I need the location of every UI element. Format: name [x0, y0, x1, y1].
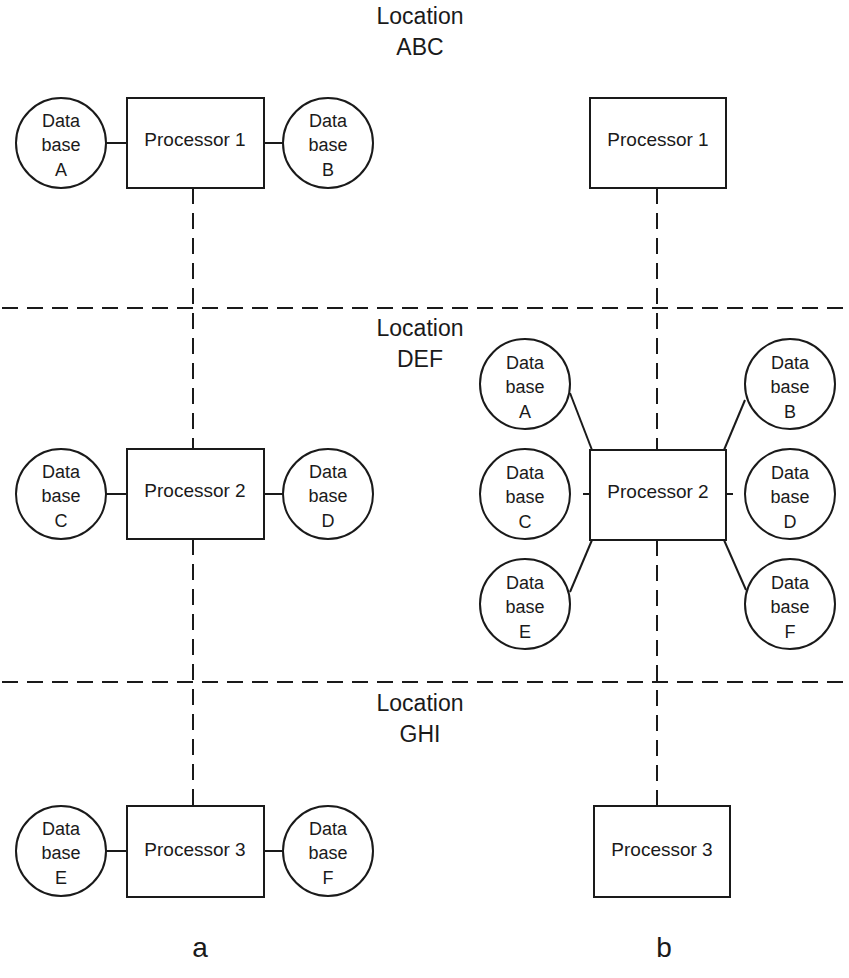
svg-text:Data: Data — [42, 462, 81, 482]
svg-text:Location: Location — [377, 315, 464, 341]
svg-text:Data: Data — [771, 463, 810, 483]
panel-b-caption: b — [656, 932, 672, 963]
processor-1: Processor 1 — [127, 98, 264, 188]
processor-1: Processor 1 — [590, 98, 726, 188]
svg-text:B: B — [322, 160, 334, 180]
svg-text:base: base — [41, 135, 80, 155]
svg-text:Data: Data — [506, 353, 545, 373]
svg-text:base: base — [308, 843, 347, 863]
svg-text:Processor 2: Processor 2 — [607, 481, 708, 502]
svg-text:base: base — [41, 486, 80, 506]
svg-text:F: F — [785, 622, 796, 642]
database-b: Data base B — [745, 339, 835, 429]
svg-text:base: base — [308, 486, 347, 506]
svg-text:Data: Data — [309, 462, 348, 482]
svg-text:Data: Data — [309, 111, 348, 131]
svg-text:DEF: DEF — [397, 346, 443, 372]
svg-text:base: base — [308, 135, 347, 155]
svg-text:base: base — [770, 487, 809, 507]
svg-text:Data: Data — [506, 463, 545, 483]
svg-text:Processor 2: Processor 2 — [144, 480, 245, 501]
database-c: Data base C — [480, 449, 570, 539]
svg-text:F: F — [323, 868, 334, 888]
svg-text:C: C — [55, 511, 68, 531]
svg-text:GHI: GHI — [400, 721, 441, 747]
svg-text:Processor 3: Processor 3 — [611, 839, 712, 860]
panel-a-caption: a — [192, 932, 208, 963]
svg-text:base: base — [505, 597, 544, 617]
database-d: Data base D — [283, 449, 373, 539]
database-d: Data base D — [745, 449, 835, 539]
processor-2: Processor 2 — [127, 449, 264, 539]
database-e: Data base E — [480, 559, 570, 649]
distributed-database-diagram: Location ABC Location DEF Location GHI D… — [0, 0, 849, 978]
svg-text:E: E — [55, 868, 67, 888]
svg-text:D: D — [784, 512, 797, 532]
svg-text:Data: Data — [506, 573, 545, 593]
database-a: Data base A — [16, 98, 106, 188]
svg-text:Processor 1: Processor 1 — [144, 129, 245, 150]
panel-b: Processor 1 Processor 2 Data base A Data… — [480, 98, 835, 963]
svg-text:base: base — [770, 597, 809, 617]
database-c: Data base C — [16, 449, 106, 539]
processor-3: Processor 3 — [594, 806, 730, 897]
svg-text:Data: Data — [42, 819, 81, 839]
svg-text:Location: Location — [377, 3, 464, 29]
database-f: Data base F — [283, 806, 373, 896]
svg-text:Data: Data — [771, 353, 810, 373]
svg-text:Location: Location — [377, 690, 464, 716]
database-b: Data base B — [283, 98, 373, 188]
location-label-def: Location DEF — [377, 315, 464, 372]
svg-text:D: D — [322, 511, 335, 531]
database-e: Data base E — [16, 806, 106, 896]
svg-text:B: B — [784, 402, 796, 422]
svg-text:base: base — [770, 377, 809, 397]
svg-text:ABC: ABC — [396, 34, 443, 60]
database-f: Data base F — [745, 559, 835, 649]
panel-a: Data base A Processor 1 Data base B Data… — [16, 98, 373, 963]
svg-text:E: E — [519, 622, 531, 642]
svg-text:Data: Data — [42, 111, 81, 131]
svg-text:base: base — [505, 487, 544, 507]
svg-text:A: A — [519, 402, 531, 422]
processor-2: Processor 2 — [590, 450, 726, 540]
svg-text:Processor 3: Processor 3 — [144, 839, 245, 860]
location-label-ghi: Location GHI — [377, 690, 464, 747]
database-a: Data base A — [480, 339, 570, 429]
svg-text:A: A — [55, 160, 67, 180]
processor-3: Processor 3 — [127, 806, 264, 897]
svg-text:base: base — [41, 843, 80, 863]
location-label-abc: Location ABC — [377, 3, 464, 60]
svg-text:Processor 1: Processor 1 — [607, 129, 708, 150]
svg-text:Data: Data — [771, 573, 810, 593]
svg-text:Data: Data — [309, 819, 348, 839]
svg-text:base: base — [505, 377, 544, 397]
svg-text:C: C — [519, 512, 532, 532]
